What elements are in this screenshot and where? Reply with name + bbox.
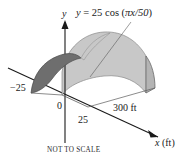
vault-base-near-edge [31, 93, 62, 95]
equation-label: y = 25 cos (πx/50) [76, 8, 152, 19]
y-axis-arrowhead [62, 20, 69, 29]
x-axis-units: (ft) [159, 137, 174, 148]
vault-far-end-cap [146, 56, 155, 93]
equation-amplitude: 25 [92, 7, 103, 18]
tick-label-negative-25: −25 [10, 83, 26, 93]
vault-base-right-edge [62, 95, 88, 107]
equation-argument: πx/50 [125, 7, 148, 18]
y-axis-label: y [62, 9, 66, 19]
tick-label-25: 25 [78, 115, 88, 125]
depth-label-300ft: 300 ft [113, 103, 137, 113]
vault-surface-body [62, 32, 146, 95]
equation-equals: = [81, 7, 92, 18]
origin-label: 0 [57, 101, 62, 111]
equation-close-paren: ) [148, 7, 152, 18]
equation-function: cos ( [102, 7, 125, 18]
not-to-scale-caption: NOT TO SCALE [47, 147, 100, 154]
x-axis-label: x (ft) [155, 138, 175, 148]
